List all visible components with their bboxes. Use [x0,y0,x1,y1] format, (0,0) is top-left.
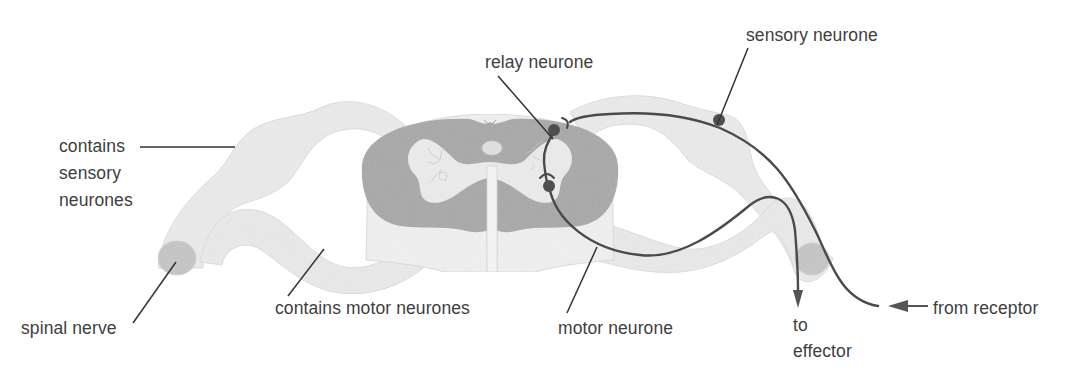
label-sensory-neurone: sensory neurone [746,23,878,48]
label-contains-sensory-line3: neurones [59,188,133,213]
central-canal [482,141,502,155]
label-to-effector-line2: effector [793,339,852,364]
label-motor-neurone: motor neurone [558,316,673,341]
label-from-receptor: from receptor [933,296,1038,321]
leader-sensory-neurone [717,48,748,125]
from-receptor-arrow-icon [888,300,928,312]
label-contains-sensory-line2: sensory [59,161,121,186]
to-effector-arrow-icon [793,290,803,308]
label-contains-sensory-line1: contains [59,134,125,159]
motor-neurone-cell-body [543,180,555,192]
leader-spinal-nerve [133,262,176,323]
spinal-cord-section [362,114,618,272]
left-nerve-cut-end [158,241,196,275]
label-spinal-nerve: spinal nerve [21,316,117,341]
reflex-arc-diagram: relay neurone sensory neurone contains s… [0,0,1077,385]
label-to-effector-line1: to [793,313,808,338]
anterior-median-fissure [487,166,497,272]
label-contains-motor-neurones: contains motor neurones [275,296,470,321]
label-relay-neurone: relay neurone [485,50,593,75]
